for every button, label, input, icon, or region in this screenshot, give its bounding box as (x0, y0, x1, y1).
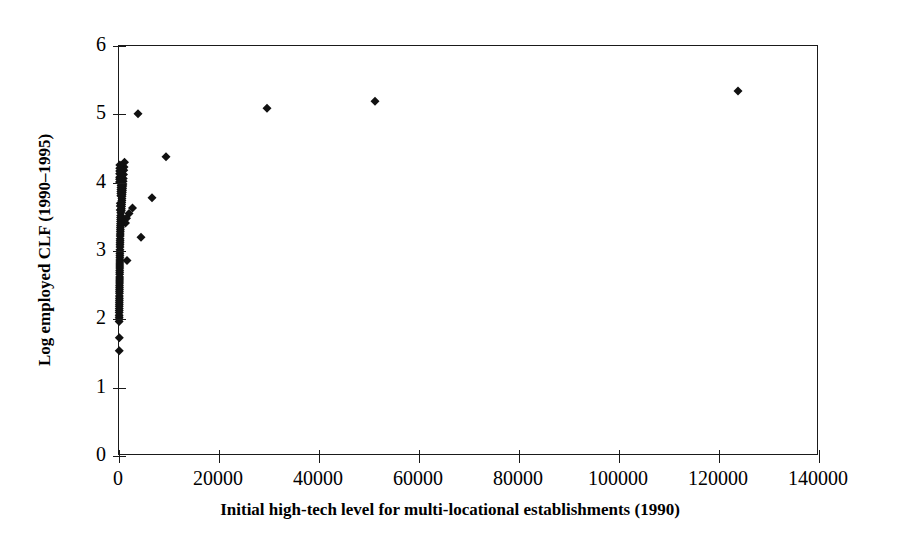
scatter-point (148, 193, 157, 202)
y-axis-title: Log employed CLF (1990–1995) (30, 45, 60, 455)
x-axis-tick-mark (819, 450, 820, 463)
y-axis-tick-label: 3 (66, 239, 106, 259)
y-axis-tick-mark (113, 251, 126, 252)
y-axis-tick-label: 0 (66, 444, 106, 464)
scatter-point (263, 104, 272, 113)
y-axis-tick-mark (113, 46, 126, 47)
x-axis-tick-mark (619, 450, 620, 463)
scatter-point (115, 346, 124, 355)
y-axis-tick-mark (113, 388, 126, 389)
scatter-point (134, 109, 143, 118)
x-axis-tick-mark (519, 450, 520, 463)
scatter-point (371, 97, 380, 106)
x-axis-title: Initial high-tech level for multi-locati… (0, 500, 900, 520)
scatter-point (115, 333, 124, 342)
y-axis-tick-label: 4 (66, 171, 106, 191)
y-axis-tick-mark (113, 319, 126, 320)
y-axis-tick-mark (113, 114, 126, 115)
plot-area (118, 45, 818, 455)
x-axis-tick-label: 140000 (758, 468, 878, 488)
x-axis-tick-mark (119, 450, 120, 463)
scatter-point (734, 87, 743, 96)
scatter-markers (119, 46, 819, 456)
x-axis-tick-mark (319, 450, 320, 463)
x-axis-tick-mark (219, 450, 220, 463)
scatter-point (137, 233, 146, 242)
y-axis-tick-mark (113, 183, 126, 184)
y-axis-tick-label: 6 (66, 34, 106, 54)
x-axis-tick-mark (419, 450, 420, 463)
y-axis-tick-label: 2 (66, 307, 106, 327)
x-axis-tick-mark (719, 450, 720, 463)
y-axis-tick-label: 1 (66, 376, 106, 396)
y-axis-tick-label: 5 (66, 102, 106, 122)
chart-figure: Log employed CLF (1990–1995) 0123456 020… (0, 0, 900, 546)
scatter-point (162, 152, 171, 161)
